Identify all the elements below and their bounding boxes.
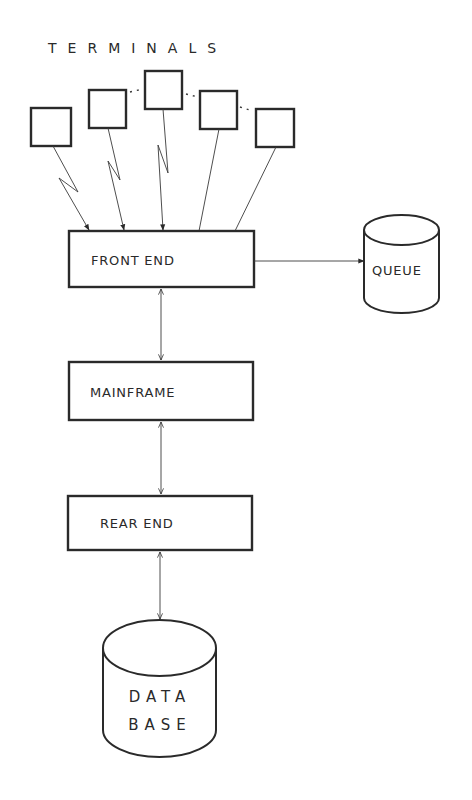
rear-end-label: REAR END bbox=[100, 516, 174, 531]
terminals-title: TERMINALS bbox=[47, 40, 227, 56]
wired-link-5 bbox=[235, 147, 276, 231]
terminal-box-2[interactable] bbox=[89, 90, 126, 128]
terminals-group bbox=[31, 71, 294, 147]
ellipsis-dots-3 bbox=[240, 107, 253, 111]
terminal-box-5[interactable] bbox=[256, 109, 294, 147]
terminal-connections bbox=[53, 109, 276, 231]
wired-link-4 bbox=[199, 129, 219, 231]
queue-label: QUEUE bbox=[372, 263, 422, 278]
front-end-node[interactable]: FRONT END bbox=[69, 231, 254, 287]
mainframe-label: MAINFRAME bbox=[90, 385, 175, 400]
queue-cylinder[interactable]: QUEUE bbox=[364, 215, 439, 313]
ellipsis-dots-2 bbox=[186, 94, 198, 97]
database-label-line1: DATA bbox=[129, 688, 192, 706]
ellipsis-dots-1 bbox=[130, 89, 143, 92]
database-cylinder[interactable]: DATA BASE bbox=[103, 620, 216, 757]
terminal-box-1[interactable] bbox=[31, 108, 71, 146]
rear-end-node[interactable]: REAR END bbox=[68, 496, 252, 550]
database-label-line2: BASE bbox=[128, 716, 192, 734]
terminal-box-4[interactable] bbox=[200, 91, 237, 129]
front-end-label: FRONT END bbox=[91, 253, 175, 268]
mainframe-node[interactable]: MAINFRAME bbox=[69, 362, 253, 420]
terminal-box-3[interactable] bbox=[145, 71, 182, 109]
wireless-link-3 bbox=[158, 109, 168, 230]
wireless-link-2 bbox=[108, 128, 124, 230]
system-diagram: TERMINALS FRONT END QUEUE MAINFRAME bbox=[0, 0, 472, 800]
wireless-link-1 bbox=[53, 146, 89, 230]
